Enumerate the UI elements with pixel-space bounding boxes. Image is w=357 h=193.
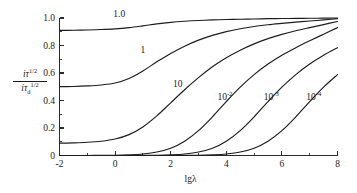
x-tick-label: 4 [224, 159, 229, 169]
data-curve [60, 18, 338, 30]
chart-plot: -20246800.20.40.60.81.0 1.011010-210-310… [0, 0, 357, 193]
curve-label-exponent: -4 [316, 90, 322, 97]
y-tick-label: 0.4 [43, 96, 55, 106]
axis-group [60, 18, 338, 156]
tick-marks-group [60, 18, 338, 156]
x-tick-label: 8 [335, 159, 340, 169]
y-tick-label: 0.6 [43, 68, 55, 78]
curve-label-base: 10 [306, 92, 316, 102]
x-tick-label: -2 [56, 159, 64, 169]
curve-label: 1 [141, 45, 146, 55]
curve-label-exponent: -2 [227, 90, 233, 97]
tick-labels-group: -20246800.20.40.60.81.0 [43, 13, 340, 169]
data-curve [60, 48, 338, 156]
y-tick-label: 0.8 [43, 41, 55, 51]
data-curve [60, 75, 338, 156]
figure-container: iτ1/2 iτd1/2 -20246800.20.40.60.81.0 1.0… [0, 0, 357, 193]
data-curves-group [60, 18, 338, 156]
x-tick-label: 0 [113, 159, 118, 169]
x-tick-label: 6 [280, 159, 285, 169]
curve-label-base: 10 [217, 92, 227, 102]
curve-label: 10 [173, 79, 183, 89]
curve-label: 10-4 [306, 90, 322, 101]
x-tick-label: 2 [168, 159, 173, 169]
x-axis-title: lgλ [185, 174, 197, 184]
data-curve [60, 28, 338, 156]
curve-label: 10-3 [264, 90, 280, 101]
curve-label: 1.0 [113, 9, 125, 19]
data-curve [60, 19, 338, 87]
curve-label-exponent: -3 [273, 90, 279, 97]
curve-label: 10-2 [217, 90, 232, 101]
y-tick-label: 0 [50, 151, 55, 161]
curve-label-base: 10 [264, 92, 274, 102]
y-tick-label: 1.0 [43, 13, 55, 23]
y-tick-label: 0.2 [43, 123, 55, 133]
